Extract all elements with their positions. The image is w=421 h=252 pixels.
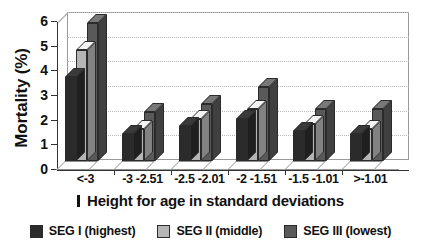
bar xyxy=(179,126,190,161)
bar xyxy=(236,119,247,161)
gridline xyxy=(67,37,409,38)
bar xyxy=(350,134,361,161)
y-axis-tick-label: 3 xyxy=(40,88,48,102)
gridline xyxy=(67,61,409,62)
x-axis-category-label: -2.5 -2.01 xyxy=(174,172,225,186)
x-axis-category-label: -3 -2.51 xyxy=(122,172,163,186)
legend-swatch xyxy=(30,225,43,238)
chart-legend: SEG I (highest)SEG II (middle)SEG III (l… xyxy=(0,224,421,238)
bar xyxy=(65,77,76,161)
x-axis-line xyxy=(57,170,409,171)
bar-side-face xyxy=(269,78,278,161)
y-axis-tick xyxy=(51,120,57,121)
bar-front-face xyxy=(236,119,247,161)
bar-side-face xyxy=(98,14,107,161)
bar-side-face xyxy=(383,100,392,161)
y-axis-tick-label: 2 xyxy=(40,113,48,127)
plot-area: 0123456 xyxy=(57,12,409,170)
y-axis-tick-label: 4 xyxy=(40,63,48,77)
bar-front-face xyxy=(350,134,361,161)
bar-chart-figure: Mortality (%) 0123456 <-3-3 -2.51-2.5 -2… xyxy=(0,0,421,252)
bar xyxy=(293,131,304,161)
legend-item: SEG I (highest) xyxy=(30,224,136,238)
bar-front-face xyxy=(179,126,190,161)
bar-side-face xyxy=(258,100,267,161)
y-axis-tick-label: 0 xyxy=(40,162,48,176)
bar-front-face xyxy=(65,77,76,161)
gridline xyxy=(67,12,409,13)
bar-side-face xyxy=(76,68,85,161)
gridline xyxy=(67,111,409,112)
x-axis-category-label: -2 -1.51 xyxy=(236,172,277,186)
legend-label: SEG III (lowest) xyxy=(303,224,391,238)
y-axis-tick xyxy=(51,144,57,145)
legend-swatch xyxy=(284,225,297,238)
legend-item: SEG III (lowest) xyxy=(284,224,391,238)
legend-swatch xyxy=(157,225,170,238)
bar-front-face xyxy=(122,134,133,161)
bar-front-face xyxy=(293,131,304,161)
y-axis-tick-label: 6 xyxy=(40,14,48,28)
bar xyxy=(122,134,133,161)
y-axis-title: Mortality (%) xyxy=(12,18,32,178)
y-axis-tick xyxy=(51,70,57,71)
y-axis-tick xyxy=(51,46,57,47)
x-axis-category-label: >-1.01 xyxy=(354,172,388,186)
x-axis-title: Height for age in standard deviations xyxy=(0,192,421,209)
x-axis-category-label: <-3 xyxy=(77,172,95,186)
bar-side-face xyxy=(155,103,164,161)
y-axis-tick xyxy=(51,95,57,96)
legend-label: SEG II (middle) xyxy=(176,224,262,238)
bar-side-face xyxy=(326,100,335,161)
legend-item: SEG II (middle) xyxy=(157,224,262,238)
x-axis-category-label: -1.5 -1.01 xyxy=(288,172,339,186)
y-axis-tick xyxy=(51,21,57,22)
x-axis-title-text: Height for age in standard deviations xyxy=(87,192,344,209)
tick-mark-glyph-icon xyxy=(77,195,80,207)
bar-side-face xyxy=(212,95,221,161)
gridline xyxy=(67,86,409,87)
legend-label: SEG I (highest) xyxy=(49,224,136,238)
y-axis-tick-label: 1 xyxy=(40,137,48,151)
bar-side-face xyxy=(87,41,96,161)
y-axis-tick-label: 5 xyxy=(40,39,48,53)
y-axis-line xyxy=(57,22,58,170)
x-axis-category-labels: <-3-3 -2.51-2.5 -2.01-2 -1.51-1.5 -1.01>… xyxy=(57,172,409,190)
